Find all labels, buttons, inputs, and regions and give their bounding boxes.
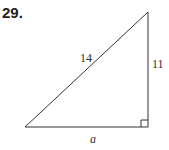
right-triangle-diagram: 14 11 a — [0, 0, 169, 150]
triangle — [25, 12, 148, 127]
hypotenuse-line — [25, 12, 148, 127]
horizontal-leg-label: a — [90, 132, 96, 146]
hypotenuse-label: 14 — [80, 51, 92, 65]
right-angle-marker — [141, 120, 148, 127]
vertical-leg-label: 11 — [152, 57, 164, 71]
